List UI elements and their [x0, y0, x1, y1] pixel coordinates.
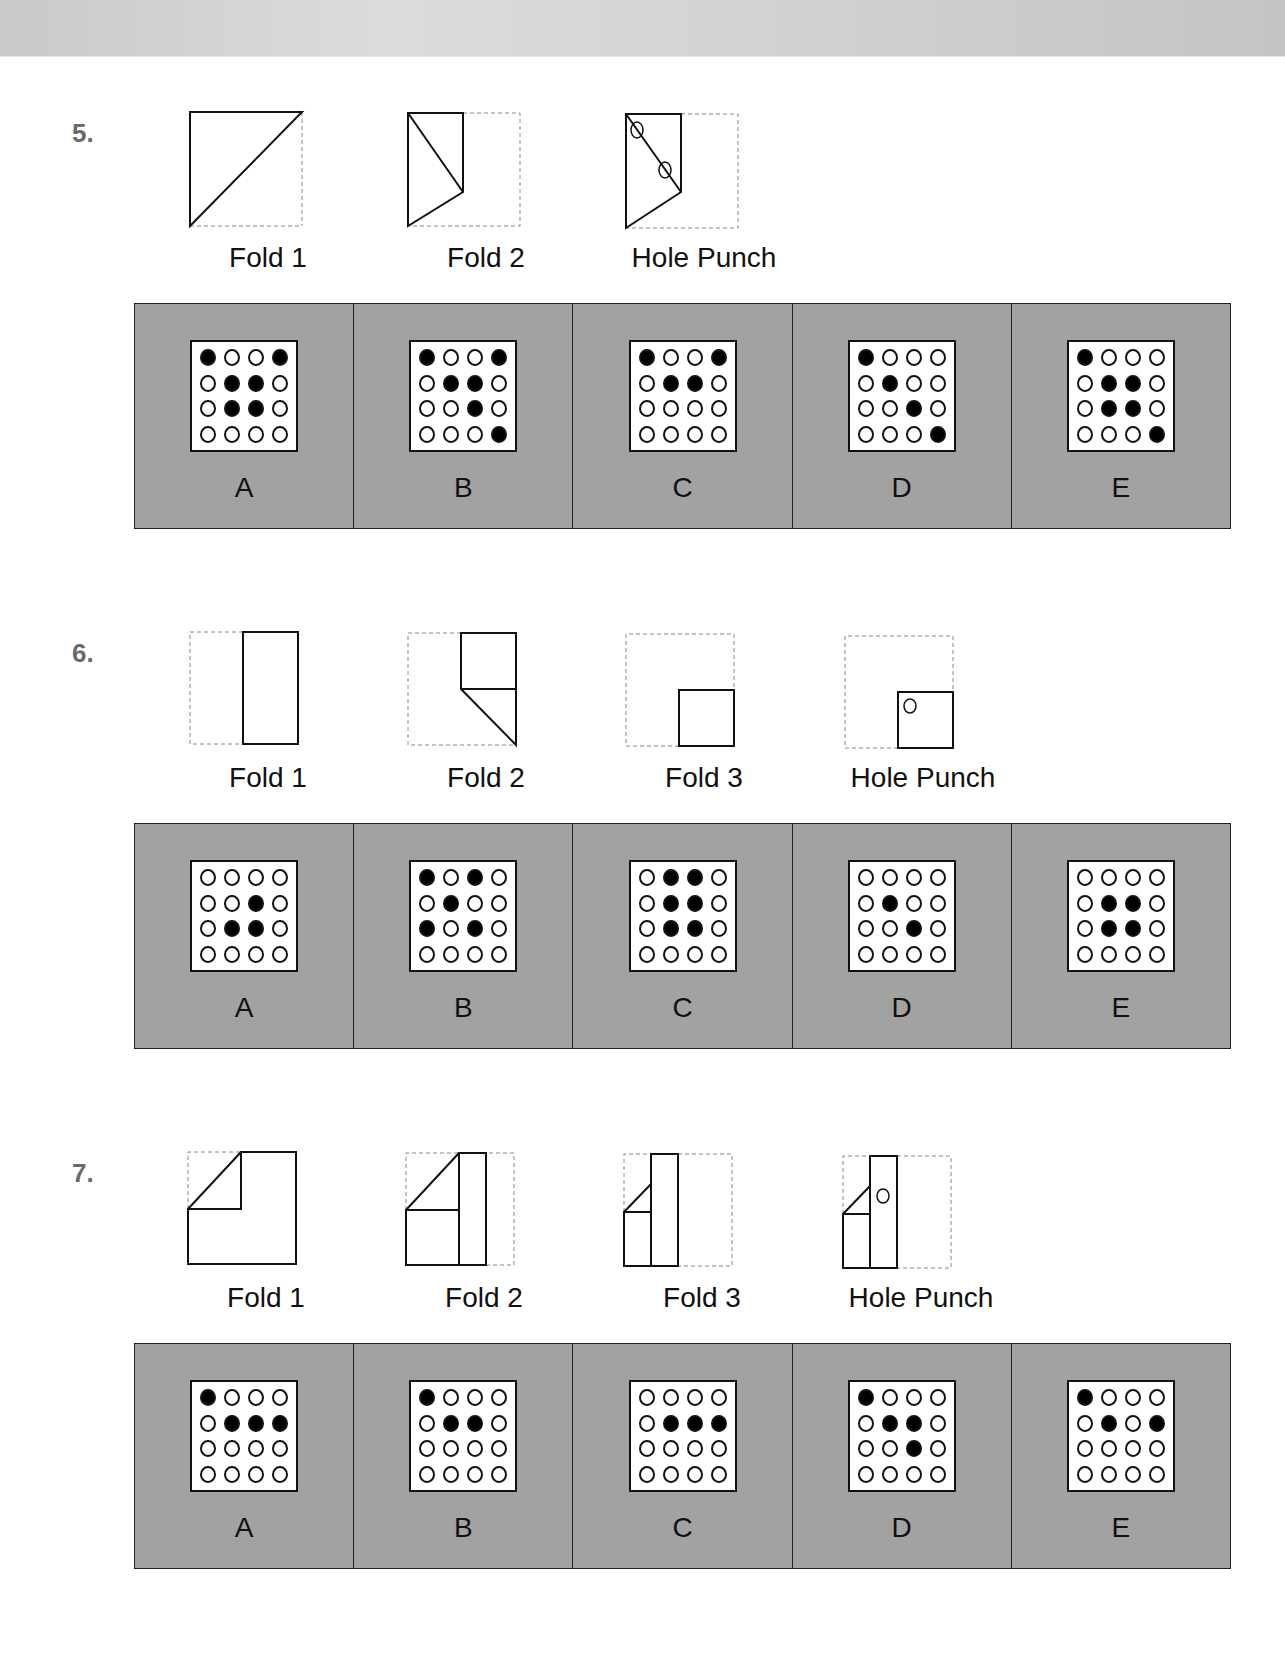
fold-diagram-icon: [186, 1150, 306, 1274]
empty-hole-icon: [1101, 426, 1117, 443]
option-d[interactable]: D: [793, 824, 1012, 1048]
empty-hole-icon: [1149, 349, 1165, 366]
punched-hole-icon: [467, 869, 483, 886]
empty-hole-icon: [419, 400, 435, 417]
empty-hole-icon: [419, 1415, 435, 1432]
option-b[interactable]: B: [354, 824, 573, 1048]
option-e[interactable]: E: [1012, 304, 1230, 528]
punched-hole-icon: [443, 1415, 459, 1432]
option-label: B: [354, 472, 572, 504]
punched-hole-icon: [687, 1415, 703, 1432]
punched-hole-icon: [711, 349, 727, 366]
empty-hole-icon: [491, 1466, 507, 1483]
punched-hole-icon: [663, 895, 679, 912]
empty-hole-icon: [272, 895, 288, 912]
option-label: E: [1012, 992, 1230, 1024]
empty-hole-icon: [1125, 1466, 1141, 1483]
step-fold-3: Fold 3: [622, 1150, 782, 1330]
empty-hole-icon: [467, 895, 483, 912]
empty-hole-icon: [1101, 1389, 1117, 1406]
hole-punch-diagram-icon: [843, 630, 963, 754]
empty-hole-icon: [419, 375, 435, 392]
empty-hole-icon: [248, 349, 264, 366]
empty-hole-icon: [248, 1389, 264, 1406]
punched-hole-icon: [443, 895, 459, 912]
option-d[interactable]: D: [793, 1344, 1012, 1568]
hole-grid: [409, 340, 517, 452]
answer-options: A B C D E: [134, 303, 1231, 529]
punched-hole-icon: [687, 869, 703, 886]
punched-hole-icon: [224, 375, 240, 392]
option-c[interactable]: C: [573, 824, 792, 1048]
empty-hole-icon: [200, 1466, 216, 1483]
empty-hole-icon: [1077, 920, 1093, 937]
option-label: C: [573, 1512, 791, 1544]
option-c[interactable]: C: [573, 304, 792, 528]
option-a[interactable]: A: [135, 1344, 354, 1568]
empty-hole-icon: [491, 920, 507, 937]
punched-hole-icon: [491, 349, 507, 366]
option-e[interactable]: E: [1012, 1344, 1230, 1568]
empty-hole-icon: [443, 349, 459, 366]
empty-hole-icon: [200, 920, 216, 937]
empty-hole-icon: [1077, 869, 1093, 886]
empty-hole-icon: [224, 895, 240, 912]
empty-hole-icon: [467, 1440, 483, 1457]
hole-grid: [629, 340, 737, 452]
empty-hole-icon: [639, 920, 655, 937]
option-b[interactable]: B: [354, 304, 573, 528]
empty-hole-icon: [491, 1440, 507, 1457]
punched-hole-icon: [248, 400, 264, 417]
empty-hole-icon: [272, 920, 288, 937]
option-b[interactable]: B: [354, 1344, 573, 1568]
empty-hole-icon: [882, 426, 898, 443]
empty-hole-icon: [711, 869, 727, 886]
punched-hole-icon: [1125, 375, 1141, 392]
punched-hole-icon: [272, 349, 288, 366]
empty-hole-icon: [906, 869, 922, 886]
empty-hole-icon: [491, 375, 507, 392]
option-label: E: [1012, 1512, 1230, 1544]
step-label: Fold 3: [584, 762, 824, 794]
option-a[interactable]: A: [135, 304, 354, 528]
empty-hole-icon: [224, 1440, 240, 1457]
header-banner: [0, 0, 1285, 57]
empty-hole-icon: [906, 1389, 922, 1406]
fold-diagram-icon: [622, 1150, 742, 1274]
empty-hole-icon: [1077, 1440, 1093, 1457]
punched-hole-icon: [906, 400, 922, 417]
punched-hole-icon: [906, 920, 922, 937]
option-e[interactable]: E: [1012, 824, 1230, 1048]
empty-hole-icon: [711, 920, 727, 937]
empty-hole-icon: [224, 1466, 240, 1483]
hole-grid: [409, 860, 517, 972]
empty-hole-icon: [711, 1440, 727, 1457]
empty-hole-icon: [711, 1466, 727, 1483]
option-a[interactable]: A: [135, 824, 354, 1048]
fold-diagram-icon: [188, 110, 308, 234]
empty-hole-icon: [248, 1466, 264, 1483]
step-fold-1: Fold 1: [188, 110, 348, 290]
empty-hole-icon: [687, 426, 703, 443]
empty-hole-icon: [663, 400, 679, 417]
empty-hole-icon: [272, 426, 288, 443]
empty-hole-icon: [443, 946, 459, 963]
punched-hole-icon: [663, 375, 679, 392]
punched-hole-icon: [663, 920, 679, 937]
empty-hole-icon: [1125, 1440, 1141, 1457]
fold-diagram-icon: [406, 110, 526, 234]
option-c[interactable]: C: [573, 1344, 792, 1568]
empty-hole-icon: [1149, 895, 1165, 912]
punched-hole-icon: [1149, 1415, 1165, 1432]
question-5: 5. Fold 1 Fold 2 Hole Punch A B C D: [0, 110, 1285, 590]
empty-hole-icon: [906, 426, 922, 443]
empty-hole-icon: [419, 946, 435, 963]
empty-hole-icon: [930, 375, 946, 392]
empty-hole-icon: [882, 946, 898, 963]
empty-hole-icon: [1077, 400, 1093, 417]
option-d[interactable]: D: [793, 304, 1012, 528]
empty-hole-icon: [687, 1440, 703, 1457]
punched-hole-icon: [906, 1440, 922, 1457]
empty-hole-icon: [930, 1415, 946, 1432]
empty-hole-icon: [1077, 895, 1093, 912]
